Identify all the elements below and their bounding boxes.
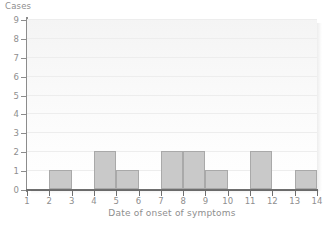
x-axis-tick-label: 14 [307, 197, 327, 206]
gridline [27, 113, 317, 114]
y-axis-tick-label: 9 [5, 16, 19, 25]
y-axis-tick-label: 5 [5, 92, 19, 101]
plot-area [27, 19, 317, 189]
x-axis-tick-label: 1 [17, 197, 37, 206]
y-axis-tick-label: 1 [5, 167, 19, 176]
bar [205, 170, 227, 189]
y-axis-tick-label: 8 [5, 35, 19, 44]
plot-right-shadow [317, 23, 322, 191]
y-axis-title: Cases [5, 1, 31, 11]
x-axis-tick-label: 8 [173, 197, 193, 206]
x-axis-tick-label: 6 [129, 197, 149, 206]
bar [49, 170, 71, 189]
x-axis-tick-label: 12 [262, 197, 282, 206]
y-axis-tick [21, 190, 26, 191]
y-axis-tick [21, 39, 26, 40]
epidemic-curve-chart: Cases 0123456789 1234567891011121314 Dat… [0, 0, 330, 227]
gridline [27, 95, 317, 96]
x-axis-tick-label: 5 [106, 197, 126, 206]
y-axis-tick [21, 152, 26, 153]
x-axis-tick-label: 7 [151, 197, 171, 206]
gridline [27, 76, 317, 77]
y-axis-tick [21, 171, 26, 172]
gridline [27, 57, 317, 58]
y-axis-tick [21, 20, 26, 21]
x-axis-tick-label: 9 [195, 197, 215, 206]
bar [183, 151, 205, 189]
bar [161, 151, 183, 189]
x-axis-tick-label: 3 [62, 197, 82, 206]
bar [295, 170, 317, 189]
plot-bottom-shadow [31, 190, 319, 194]
x-axis-tick-label: 13 [285, 197, 305, 206]
y-axis-tick [21, 133, 26, 134]
y-axis-tick-label: 6 [5, 73, 19, 82]
gridline [27, 19, 317, 20]
y-axis-tick-label: 2 [5, 148, 19, 157]
gridline [27, 132, 317, 133]
x-axis-tick-label: 4 [84, 197, 104, 206]
y-axis-tick [21, 58, 26, 59]
x-axis-tick-label: 2 [39, 197, 59, 206]
y-axis-tick [21, 96, 26, 97]
bar [94, 151, 116, 189]
gridline [27, 38, 317, 39]
bar [250, 151, 272, 189]
y-axis-tick-label: 3 [5, 129, 19, 138]
x-axis-title: Date of onset of symptoms [27, 208, 317, 218]
y-axis-tick-label: 4 [5, 110, 19, 119]
x-axis-tick-label: 11 [240, 197, 260, 206]
bar [116, 170, 138, 189]
y-axis-tick-label: 0 [5, 186, 19, 195]
y-axis-tick [21, 77, 26, 78]
y-axis-tick [21, 114, 26, 115]
x-axis-tick-label: 10 [218, 197, 238, 206]
y-axis-tick-label: 7 [5, 54, 19, 63]
